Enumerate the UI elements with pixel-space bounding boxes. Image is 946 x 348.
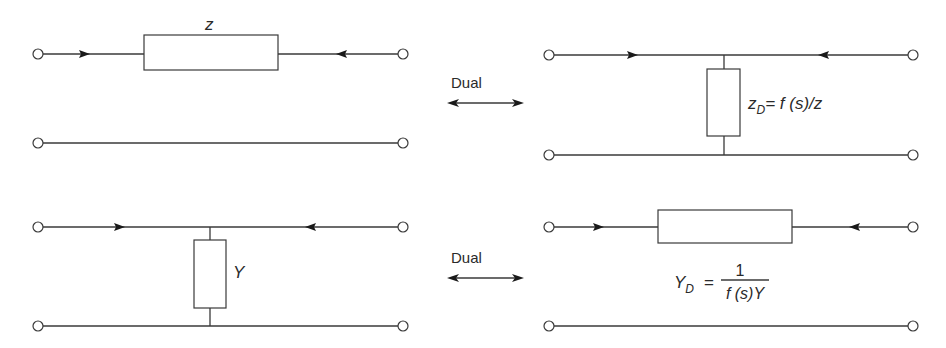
terminal-icon	[33, 138, 43, 148]
dual-admittance-subscript: D	[685, 282, 694, 296]
shunt-admittance-box	[194, 240, 226, 308]
terminal-icon	[908, 321, 918, 331]
bottom-left-network: Y	[33, 222, 408, 331]
dual-label: Dual	[451, 249, 482, 266]
shunt-impedance-box	[707, 69, 740, 136]
terminal-icon	[544, 321, 554, 331]
top-dual-indicator: Dual	[447, 74, 524, 107]
terminal-icon	[398, 138, 408, 148]
terminal-icon	[398, 222, 408, 232]
terminal-icon	[908, 150, 918, 160]
duality-diagram: z Dual zD= f (s)/z Y	[0, 0, 946, 348]
top-right-network: zD= f (s)/z	[544, 50, 918, 160]
terminal-icon	[908, 222, 918, 232]
equals-sign: =	[704, 273, 714, 292]
dual-impedance-symbol: z	[747, 94, 757, 113]
terminal-icon	[33, 321, 43, 331]
fraction-denominator: f (s)Y	[726, 285, 766, 302]
admittance-label: Y	[233, 263, 246, 282]
bottom-dual-indicator: Dual	[447, 249, 524, 282]
dual-admittance-formula: YD = 1 f (s)Y	[674, 262, 769, 302]
terminal-icon	[33, 49, 43, 59]
terminal-icon	[544, 150, 554, 160]
top-left-network: z	[33, 15, 408, 148]
dual-label: Dual	[451, 74, 482, 91]
dual-admittance-symbol: YD	[674, 273, 694, 296]
fraction-numerator: 1	[736, 262, 745, 279]
dual-impedance-formula: zD= f (s)/z	[747, 94, 823, 117]
terminal-icon	[33, 222, 43, 232]
dual-impedance-subscript: D	[757, 103, 766, 117]
impedance-label: z	[204, 15, 214, 34]
terminal-icon	[398, 49, 408, 59]
terminal-icon	[544, 222, 554, 232]
bottom-right-network: YD = 1 f (s)Y	[544, 210, 918, 331]
series-admittance-box	[658, 210, 792, 243]
terminal-icon	[398, 321, 408, 331]
terminal-icon	[544, 50, 554, 60]
series-impedance-box	[144, 35, 278, 70]
terminal-icon	[908, 50, 918, 60]
dual-impedance-rhs: = f (s)/z	[765, 94, 823, 113]
